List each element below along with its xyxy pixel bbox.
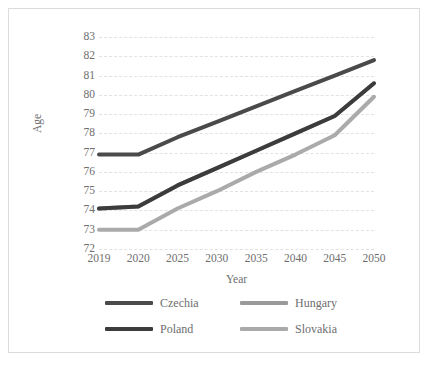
series-line-czechia — [99, 60, 374, 154]
x-axis-title: Year — [99, 273, 374, 285]
chart-frame: Age 727374757677787980818283 20192020202… — [8, 8, 420, 353]
y-tick-label: 79 — [84, 108, 96, 120]
y-tick-label: 82 — [84, 51, 96, 63]
plot-canvas — [99, 37, 374, 249]
legend-label: Poland — [160, 323, 193, 335]
legend-swatch-icon — [105, 301, 153, 305]
x-tick-label: 2050 — [363, 253, 386, 265]
series-line-poland — [99, 83, 374, 208]
legend-item-slovakia[interactable]: Slovakia — [240, 323, 367, 335]
series-lines — [99, 37, 374, 249]
legend-item-czechia[interactable]: Czechia — [105, 297, 232, 309]
legend-label: Czechia — [160, 297, 199, 309]
legend-swatch-icon — [240, 301, 288, 305]
x-tick-label: 2030 — [205, 253, 228, 265]
y-tick-label: 76 — [84, 166, 96, 178]
legend-item-hungary[interactable]: Hungary — [240, 297, 367, 309]
y-tick-label: 74 — [84, 205, 96, 217]
x-tick-label: 2020 — [127, 253, 150, 265]
y-tick-label: 83 — [84, 31, 96, 43]
gridline — [99, 249, 374, 250]
x-axis-tick-labels: 20192020202520302035204020452050 — [99, 253, 374, 269]
y-tick-label: 78 — [84, 128, 96, 140]
y-tick-label: 75 — [84, 185, 96, 197]
legend-label: Hungary — [295, 297, 337, 309]
legend-item-poland[interactable]: Poland — [105, 323, 232, 335]
x-tick-label: 2019 — [88, 253, 111, 265]
chart-screenshot: Age 727374757677787980818283 20192020202… — [0, 0, 448, 369]
legend-swatch-icon — [240, 327, 288, 331]
y-tick-label: 77 — [84, 147, 96, 159]
y-axis-title: Age — [31, 114, 43, 133]
y-axis-tick-labels: 727374757677787980818283 — [61, 37, 95, 249]
y-tick-label: 73 — [84, 224, 96, 236]
x-tick-label: 2025 — [166, 253, 189, 265]
legend-swatch-icon — [105, 327, 153, 331]
x-tick-label: 2040 — [284, 253, 307, 265]
x-tick-label: 2045 — [323, 253, 346, 265]
y-tick-label: 81 — [84, 70, 96, 82]
x-tick-label: 2035 — [245, 253, 268, 265]
y-tick-label: 80 — [84, 89, 96, 101]
plot-area: Age 727374757677787980818283 20192020202… — [9, 9, 421, 354]
chart-legend: CzechiaHungaryPolandSlovakia — [105, 297, 367, 335]
series-line-hungary — [99, 83, 374, 208]
legend-label: Slovakia — [295, 323, 337, 335]
